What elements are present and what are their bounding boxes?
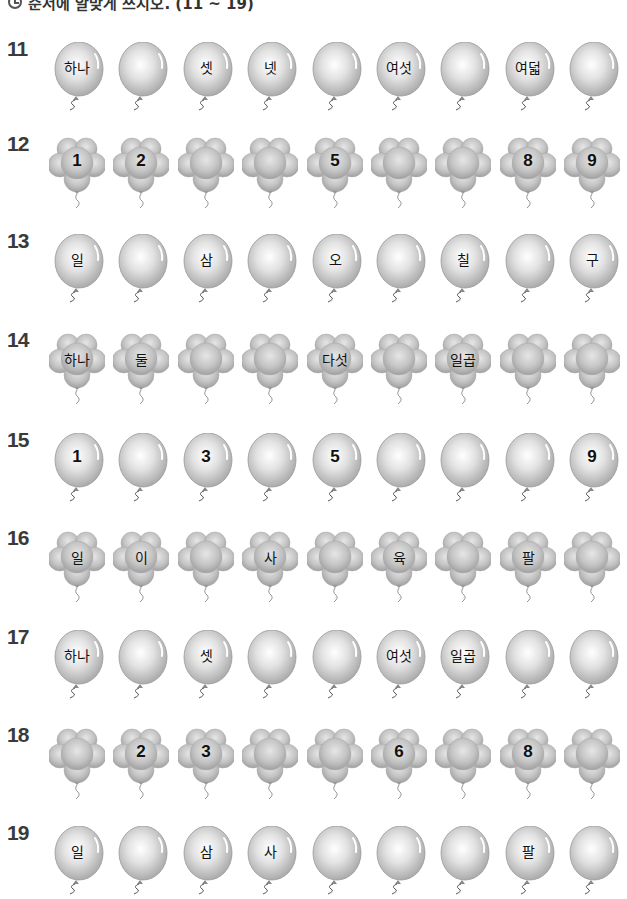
- balloon-label: 여섯: [371, 57, 427, 77]
- round-balloon: 오: [307, 234, 363, 312]
- flower-balloon: 5: [307, 137, 363, 215]
- blank-flower-balloon[interactable]: [371, 333, 427, 411]
- problem-number: 16: [7, 526, 28, 550]
- balloon-label: 구: [564, 249, 620, 269]
- blank-round-balloon[interactable]: [435, 826, 491, 899]
- balloon-label: 일: [49, 249, 105, 269]
- blank-round-balloon[interactable]: [113, 42, 169, 120]
- blank-round-balloon[interactable]: [113, 826, 169, 899]
- flower-balloon: 8: [500, 137, 556, 215]
- blank-flower-balloon[interactable]: [178, 333, 234, 411]
- balloon-label: 셋: [178, 645, 234, 665]
- blank-round-balloon[interactable]: [564, 630, 620, 708]
- problem-number: 15: [7, 428, 28, 452]
- blank-round-balloon[interactable]: [435, 42, 491, 120]
- round-balloon: 넷: [242, 42, 298, 120]
- blank-round-balloon[interactable]: [113, 234, 169, 312]
- blank-flower-balloon[interactable]: [49, 728, 105, 806]
- round-balloon: 여섯: [371, 42, 427, 120]
- blank-round-balloon[interactable]: [113, 630, 169, 708]
- flower-balloon: 둘: [113, 333, 169, 411]
- round-balloon: 3: [178, 433, 234, 511]
- round-balloon: 일: [49, 234, 105, 312]
- flower-balloon: 8: [500, 728, 556, 806]
- flower-balloon: 사: [242, 531, 298, 609]
- blank-flower-balloon[interactable]: [242, 728, 298, 806]
- blank-round-balloon[interactable]: [435, 433, 491, 511]
- problem-row-12: 12 1: [0, 137, 627, 227]
- blank-round-balloon[interactable]: [500, 433, 556, 511]
- blank-round-balloon[interactable]: [307, 42, 363, 120]
- blank-round-balloon[interactable]: [500, 630, 556, 708]
- blank-round-balloon[interactable]: [371, 433, 427, 511]
- problem-row-18: 18: [0, 728, 627, 818]
- blank-flower-balloon[interactable]: [564, 333, 620, 411]
- blank-flower-balloon[interactable]: [435, 531, 491, 609]
- clock-icon: [8, 0, 22, 9]
- blank-flower-balloon[interactable]: [178, 137, 234, 215]
- blank-flower-balloon[interactable]: [178, 531, 234, 609]
- balloon-label: 2: [113, 151, 169, 171]
- balloon-label: 삼: [178, 249, 234, 269]
- balloon-label: 팔: [500, 547, 556, 567]
- blank-flower-balloon[interactable]: [435, 728, 491, 806]
- blank-round-balloon[interactable]: [371, 234, 427, 312]
- balloon-label: 셋: [178, 57, 234, 77]
- blank-round-balloon[interactable]: [564, 826, 620, 899]
- round-balloon: 5: [307, 433, 363, 511]
- round-balloon: 삼: [178, 826, 234, 899]
- balloon-label: 하나: [49, 349, 105, 369]
- balloon-label: 9: [564, 447, 620, 467]
- balloon-label: 9: [564, 151, 620, 171]
- blank-flower-balloon[interactable]: [564, 531, 620, 609]
- flower-balloon: 다섯: [307, 333, 363, 411]
- flower-balloon: 일: [49, 531, 105, 609]
- flower-balloon: 2: [113, 728, 169, 806]
- balloon-label: 1: [49, 447, 105, 467]
- balloon-label: 이: [113, 547, 169, 567]
- round-balloon: 9: [564, 433, 620, 511]
- blank-round-balloon[interactable]: [307, 826, 363, 899]
- balloon-label: 여덟: [500, 57, 556, 77]
- balloon-label: 사: [242, 547, 298, 567]
- round-balloon: 하나: [49, 42, 105, 120]
- blank-flower-balloon[interactable]: [242, 137, 298, 215]
- flower-balloon: 이: [113, 531, 169, 609]
- blank-round-balloon[interactable]: [242, 234, 298, 312]
- balloon-label: 일: [49, 547, 105, 567]
- round-balloon: 구: [564, 234, 620, 312]
- problem-row-16: 16 일: [0, 531, 627, 621]
- blank-flower-balloon[interactable]: [564, 728, 620, 806]
- blank-round-balloon[interactable]: [242, 433, 298, 511]
- blank-flower-balloon[interactable]: [435, 137, 491, 215]
- problem-row-14: 14 하나: [0, 333, 627, 423]
- problem-number: 12: [7, 132, 28, 156]
- blank-round-balloon[interactable]: [242, 630, 298, 708]
- blank-round-balloon[interactable]: [500, 234, 556, 312]
- problem-number: 13: [7, 229, 28, 253]
- blank-round-balloon[interactable]: [564, 42, 620, 120]
- round-balloon: 셋: [178, 42, 234, 120]
- balloon-label: 일곱: [435, 349, 491, 369]
- balloon-label: 3: [178, 742, 234, 762]
- blank-flower-balloon[interactable]: [500, 333, 556, 411]
- blank-flower-balloon[interactable]: [371, 137, 427, 215]
- blank-flower-balloon[interactable]: [307, 728, 363, 806]
- balloon-label: 5: [307, 447, 363, 467]
- problem-number: 11: [7, 37, 27, 61]
- balloon-label: 사: [242, 841, 298, 861]
- blank-flower-balloon[interactable]: [242, 333, 298, 411]
- flower-balloon: 9: [564, 137, 620, 215]
- balloon-label: 8: [500, 742, 556, 762]
- blank-round-balloon[interactable]: [307, 630, 363, 708]
- balloon-label: 6: [371, 742, 427, 762]
- flower-balloon: 2: [113, 137, 169, 215]
- balloon-label: 다섯: [307, 349, 363, 369]
- flower-balloon: 하나: [49, 333, 105, 411]
- balloon-label: 1: [49, 151, 105, 171]
- blank-round-balloon[interactable]: [113, 433, 169, 511]
- round-balloon: 사: [242, 826, 298, 899]
- instruction-header: 순서에 알맞게 쓰시오. (11 ~ 19): [8, 0, 254, 12]
- blank-round-balloon[interactable]: [371, 826, 427, 899]
- blank-flower-balloon[interactable]: [307, 531, 363, 609]
